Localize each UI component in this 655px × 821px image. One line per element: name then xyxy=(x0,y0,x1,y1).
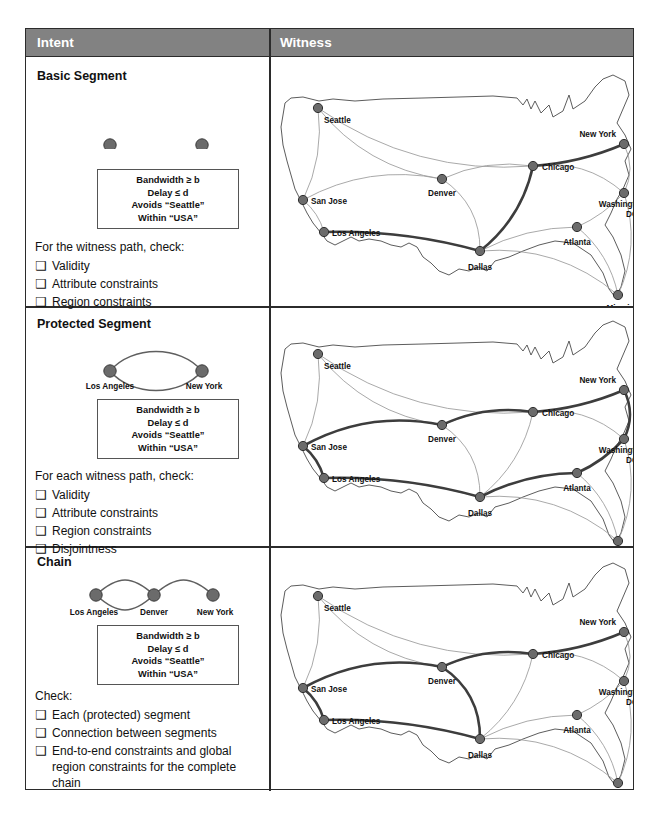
map-node xyxy=(298,441,307,450)
network-link xyxy=(303,596,319,688)
constraint-box: Bandwidth ≥ b Delay ≤ d Avoids “Seattle”… xyxy=(97,399,239,459)
map-node xyxy=(475,246,484,255)
constraint-bandwidth: Bandwidth ≥ b xyxy=(98,404,238,417)
witness-path-segment xyxy=(442,652,533,667)
constraint-box: Bandwidth ≥ b Delay ≤ d Avoids “Seattle”… xyxy=(97,625,239,685)
check-item[interactable]: ❑ Each (protected) segment xyxy=(35,707,267,723)
map-node-label: Denver xyxy=(428,435,457,444)
check-item[interactable]: ❑ Validity xyxy=(35,258,267,274)
network-link xyxy=(303,108,319,200)
check-label: Each (protected) segment xyxy=(52,707,267,723)
map-node-label: Denver xyxy=(428,189,457,198)
checkbox-icon[interactable]: ❑ xyxy=(35,743,52,759)
constraint-within: Within “USA” xyxy=(98,212,238,225)
map-node-label: New York xyxy=(579,376,616,385)
intent-diagram-basic: Los Angeles New York xyxy=(26,87,269,149)
check-label: Validity xyxy=(52,258,267,274)
map-node xyxy=(572,222,581,231)
table-header: Intent Witness xyxy=(26,29,633,57)
network-link xyxy=(303,354,319,446)
map-node-label: Washington xyxy=(599,688,633,697)
map-node-label: Denver xyxy=(428,677,457,686)
map-node xyxy=(619,676,628,685)
checkbox-icon[interactable]: ❑ xyxy=(35,725,52,741)
map-node-label: DC xyxy=(626,456,633,465)
checkbox-icon[interactable]: ❑ xyxy=(35,523,52,539)
map-node xyxy=(528,161,537,170)
table-row: Chain Los Angeles Denver New York Bandwi… xyxy=(26,547,269,790)
map-node xyxy=(572,468,581,477)
map-node-label: Chicago xyxy=(542,651,574,660)
map-node-label: Atlanta xyxy=(563,484,591,493)
constraint-avoids: Avoids “Seattle” xyxy=(98,655,238,668)
header-witness: Witness xyxy=(280,29,332,57)
map-node-label: New York xyxy=(579,618,616,627)
map-node-label: Chicago xyxy=(542,163,574,172)
map-node-label: Dallas xyxy=(468,509,493,518)
witness-path-segment xyxy=(577,439,624,473)
map-node xyxy=(619,385,628,394)
map-node-label: San Jose xyxy=(311,685,347,694)
check-item[interactable]: ❑ Attribute constraints xyxy=(35,276,267,292)
checkbox-icon[interactable]: ❑ xyxy=(35,487,52,503)
check-item[interactable]: ❑ Connection between segments xyxy=(35,725,267,741)
network-link xyxy=(577,193,624,227)
constraint-box: Bandwidth ≥ b Delay ≤ d Avoids “Seattle”… xyxy=(97,169,239,229)
network-link xyxy=(577,681,624,715)
header-intent: Intent xyxy=(37,29,74,57)
intent-witness-table: Intent Witness Basic Segment Los Angeles… xyxy=(25,28,634,790)
map-node xyxy=(619,434,628,443)
map-node xyxy=(319,473,328,482)
map-node-label: Atlanta xyxy=(563,238,591,247)
check-lead: Check: xyxy=(35,689,72,703)
constraint-bandwidth: Bandwidth ≥ b xyxy=(98,174,238,187)
map-node-label: Chicago xyxy=(542,409,574,418)
check-item[interactable]: ❑ Attribute constraints xyxy=(35,505,267,521)
row-title: Basic Segment xyxy=(37,69,127,83)
witness-map-chain: SeattleSan JoseLos AngelesDenverDallasCh… xyxy=(269,547,633,790)
map-node xyxy=(613,290,622,299)
checkbox-icon[interactable]: ❑ xyxy=(35,707,52,723)
checkbox-icon[interactable]: ❑ xyxy=(35,505,52,521)
table-row: Basic Segment Los Angeles New York Bandw… xyxy=(26,57,269,306)
map-node xyxy=(619,188,628,197)
check-lead: For the witness path, check: xyxy=(35,240,184,254)
check-label: Region constraints xyxy=(52,523,267,539)
map-node xyxy=(528,649,537,658)
intent-diagram-protected: Los Angeles New York xyxy=(26,331,269,393)
map-node xyxy=(475,492,484,501)
map-node-label: Dallas xyxy=(468,263,493,272)
map-node xyxy=(613,778,622,787)
map-node-label: San Jose xyxy=(311,443,347,452)
map-node xyxy=(298,195,307,204)
map-node xyxy=(437,174,446,183)
constraint-avoids: Avoids “Seattle” xyxy=(98,429,238,442)
map-node xyxy=(313,591,322,600)
constraint-within: Within “USA” xyxy=(98,442,238,455)
intent-node-label: New York xyxy=(197,608,234,617)
intent-node-label: New York xyxy=(186,382,223,391)
map-node-label: Miami xyxy=(606,304,629,306)
witness-path-segment xyxy=(442,410,533,425)
network-link xyxy=(480,496,618,541)
intent-node-label: Los Angeles xyxy=(70,608,119,617)
intent-node-label: Los Angeles xyxy=(86,382,135,391)
check-item[interactable]: ❑ End-to-end constraints and global regi… xyxy=(35,743,267,791)
check-item[interactable]: ❑ Region constraints xyxy=(35,523,267,539)
map-node xyxy=(319,227,328,236)
constraint-delay: Delay ≤ d xyxy=(98,417,238,430)
witness-map-protected: SeattleSan JoseLos AngelesDenverDallasCh… xyxy=(269,307,633,546)
check-item[interactable]: ❑ Validity xyxy=(35,487,267,503)
map-node-label: Los Angeles xyxy=(332,475,381,484)
checkbox-icon[interactable]: ❑ xyxy=(35,258,52,274)
check-label: Attribute constraints xyxy=(52,505,267,521)
witness-path-segment xyxy=(480,166,533,251)
map-node-label: Los Angeles xyxy=(332,717,381,726)
map-node xyxy=(313,349,322,358)
map-node-label: Los Angeles xyxy=(332,229,381,238)
constraint-avoids: Avoids “Seattle” xyxy=(98,199,238,212)
map-node xyxy=(437,420,446,429)
map-node xyxy=(619,139,628,148)
row-title: Protected Segment xyxy=(37,317,151,331)
checkbox-icon[interactable]: ❑ xyxy=(35,276,52,292)
